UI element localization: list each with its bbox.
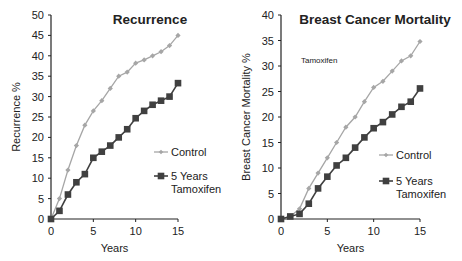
y-tick-label: 20	[262, 111, 274, 123]
legend-control-label: Control	[396, 149, 431, 161]
y-tick-label: 15	[262, 137, 274, 149]
y-tick-label: 5	[268, 188, 274, 200]
tamoxifen-marker	[115, 134, 122, 141]
x-tick-label: 5	[324, 225, 330, 237]
legend: Control5 YearsTamoxifen	[379, 149, 446, 200]
legend-tamoxifen-label-2: Tamoxifen	[171, 183, 221, 195]
x-tick-label: 10	[368, 225, 380, 237]
tamoxifen-marker	[287, 213, 294, 220]
legend-control-icon	[384, 153, 389, 158]
legend-tamoxifen-label-2: Tamoxifen	[396, 188, 446, 200]
chart-title: Breast Cancer Mortality	[299, 12, 451, 27]
y-tick-label: 10	[262, 162, 274, 174]
tamoxifen-marker	[175, 80, 182, 87]
y-tick-label: 0	[38, 213, 44, 225]
tamoxifen-marker	[124, 126, 131, 133]
tamoxifen-marker	[370, 125, 377, 132]
control-marker	[142, 57, 147, 62]
y-tick-label: 30	[32, 91, 44, 103]
tamoxifen-marker	[149, 101, 156, 108]
x-tick-label: 0	[278, 225, 284, 237]
recurrence-chart: 05101520253035404550051015RecurrenceYear…	[10, 9, 221, 254]
tamoxifen-marker	[333, 162, 340, 169]
legend-control-label: Control	[171, 146, 206, 158]
legend-control-icon	[159, 150, 164, 155]
legend-tamoxifen-icon	[158, 173, 165, 180]
legend-tamoxifen-label: 5 Years	[396, 175, 433, 187]
y-tick-label: 20	[32, 131, 44, 143]
y-tick-label: 25	[32, 111, 44, 123]
y-tick-label: 10	[32, 172, 44, 184]
tamoxifen-marker	[343, 155, 350, 162]
tamoxifen-marker	[132, 115, 139, 122]
tamoxifen-marker	[361, 134, 368, 141]
tamoxifen-marker	[315, 185, 322, 192]
x-tick-label: 15	[414, 225, 426, 237]
annotation-text: Tamoxifen	[301, 56, 337, 65]
x-axis-label: Years	[101, 242, 129, 254]
y-tick-label: 35	[262, 35, 274, 47]
y-tick-label: 5	[38, 193, 44, 205]
tamoxifen-marker	[99, 148, 106, 155]
tamoxifen-marker	[380, 119, 387, 126]
tamoxifen-marker	[48, 216, 55, 223]
x-tick-label: 10	[130, 225, 142, 237]
tamoxifen-marker	[278, 216, 285, 223]
tamoxifen-marker	[90, 155, 97, 162]
tamoxifen-marker	[107, 142, 114, 149]
tamoxifen-marker	[324, 173, 331, 180]
legend-tamoxifen-label: 5 Years	[171, 170, 208, 182]
mortality-chart: 0510152025303540051015Breast Cancer Mort…	[240, 9, 451, 254]
x-axis-label: Years	[337, 242, 365, 254]
y-tick-label: 30	[262, 60, 274, 72]
control-marker	[74, 143, 79, 148]
y-tick-label: 0	[268, 213, 274, 225]
tamoxifen-marker	[398, 104, 405, 111]
tamoxifen-marker	[417, 85, 424, 92]
y-tick-label: 35	[32, 70, 44, 82]
y-axis-label: Recurrence %	[10, 82, 22, 152]
tamoxifen-marker	[82, 171, 89, 178]
tamoxifen-marker	[141, 108, 148, 115]
y-tick-label: 45	[32, 29, 44, 41]
y-axis-label: Breast Cancer Mortality %	[240, 53, 252, 181]
tamoxifen-marker	[65, 191, 72, 198]
control-marker	[150, 53, 155, 58]
tamoxifen-marker	[73, 179, 80, 186]
tamoxifen-marker	[389, 111, 396, 118]
chart-canvas: 05101520253035404550051015RecurrenceYear…	[0, 0, 462, 261]
x-tick-label: 0	[48, 225, 54, 237]
tamoxifen-marker	[296, 211, 303, 218]
tamoxifen-marker	[407, 98, 414, 105]
control-marker	[65, 167, 70, 172]
y-tick-label: 50	[32, 9, 44, 21]
y-tick-label: 25	[262, 86, 274, 98]
tamoxifen-marker	[56, 208, 63, 215]
tamoxifen-marker	[306, 200, 313, 207]
x-tick-label: 15	[172, 225, 184, 237]
control-marker	[57, 196, 62, 201]
tamoxifen-marker	[352, 144, 359, 151]
legend-tamoxifen-icon	[383, 178, 390, 185]
y-tick-label: 15	[32, 152, 44, 164]
tamoxifen-marker	[166, 93, 173, 100]
legend: Control5 YearsTamoxifen	[154, 146, 221, 195]
y-tick-label: 40	[32, 50, 44, 62]
tamoxifen-marker	[158, 97, 165, 104]
y-tick-label: 40	[262, 9, 274, 21]
x-tick-label: 5	[90, 225, 96, 237]
chart-title: Recurrence	[113, 12, 188, 27]
